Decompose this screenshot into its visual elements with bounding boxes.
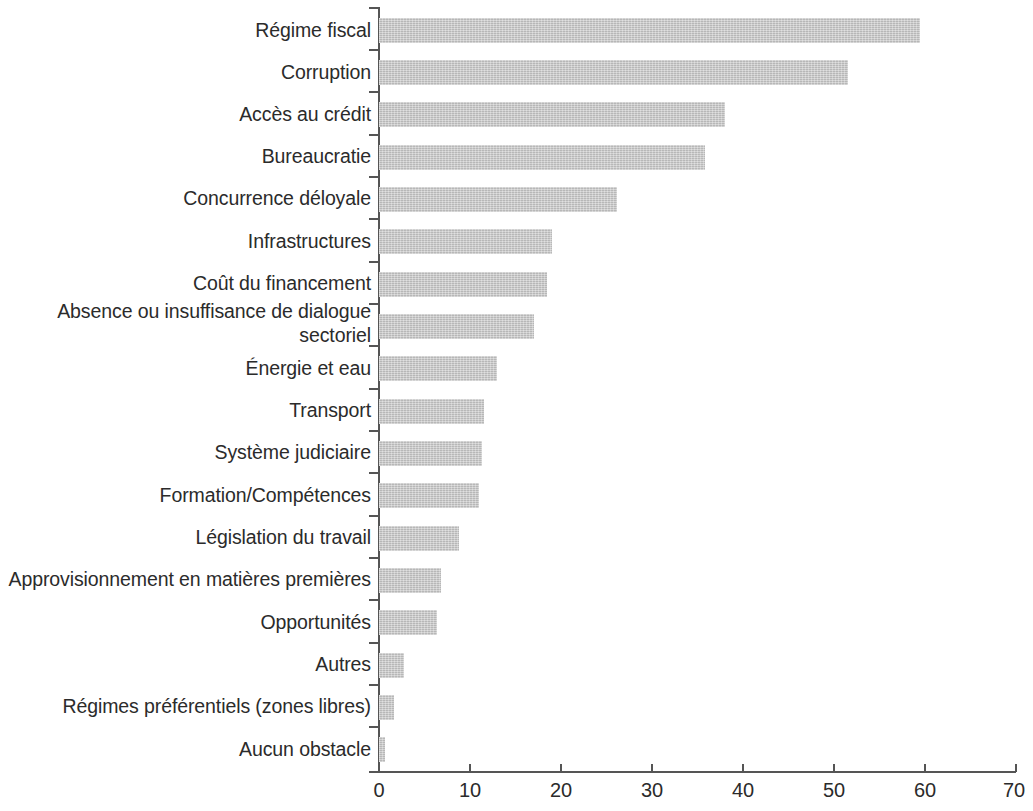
y-axis-label-12: Législation du travail [0,525,371,549]
bar-14 [379,610,437,635]
y-axis-tick [369,557,379,559]
y-axis-tick [369,134,379,136]
y-axis-tick [369,218,379,220]
x-axis-tick [378,764,380,772]
bar-16 [379,695,394,720]
x-axis-tick [1015,764,1017,772]
bar-8 [379,356,497,381]
y-axis-label-0: Régime fiscal [0,18,371,42]
x-axis-tick-label-5: 50 [804,778,864,802]
x-axis-tick-label-2: 20 [531,778,591,802]
x-axis-tick [651,764,653,772]
y-axis-label-13: Approvisionnement en matières premières [0,567,371,591]
bar-5 [379,229,552,254]
y-axis-tick [369,49,379,51]
y-axis-tick [369,472,379,474]
x-axis-tick-label-3: 30 [622,778,682,802]
y-axis-label-3: Bureaucratie [0,144,371,168]
y-axis-tick [369,388,379,390]
bar-12 [379,526,459,551]
y-axis-label-8: Énergie et eau [0,356,371,380]
y-axis-label-1: Corruption [0,60,371,84]
y-axis-tick [369,642,379,644]
bar-6 [379,272,547,297]
x-axis-tick [924,764,926,772]
y-axis-label-2: Accès au crédit [0,102,371,126]
bar-1 [379,60,848,85]
x-axis-tick [833,764,835,772]
x-axis-tick [469,764,471,772]
y-axis-label-5: Infrastructures [0,229,371,253]
bar-9 [379,399,484,424]
bar-17 [379,737,385,762]
bar-10 [379,441,482,466]
y-axis-label-9: Transport [0,398,371,422]
y-axis-tick [369,7,379,9]
bar-13 [379,568,441,593]
bar-4 [379,187,617,212]
x-axis-tick [560,764,562,772]
x-axis-line [378,771,1016,773]
y-axis-tick [369,684,379,686]
y-axis-label-15: Autres [0,652,371,676]
bar-0 [379,18,920,43]
y-axis-tick [369,91,379,93]
y-axis-tick [369,176,379,178]
y-axis-tick [369,261,379,263]
y-axis-tick [369,303,379,305]
y-axis-label-16: Régimes préférentiels (zones libres) [0,694,371,718]
y-axis-tick [369,430,379,432]
y-axis-label-11: Formation/Compétences [0,483,371,507]
y-axis-label-17: Aucun obstacle [0,737,371,761]
x-axis-tick-label-7: 70 [984,778,1033,802]
bar-7 [379,314,534,339]
x-axis-tick-label-4: 40 [713,778,773,802]
y-axis-category-labels: Régime fiscal Corruption Accès au crédit… [0,0,371,772]
y-axis-label-10: Système judiciaire [0,440,371,464]
y-axis-label-7: Absence ou insuffisance de dialogue sect… [0,299,371,347]
y-axis-label-6: Coût du financement [0,271,371,295]
y-axis-tick [369,515,379,517]
horizontal-bar-chart: Régime fiscal Corruption Accès au crédit… [0,0,1033,811]
x-axis-tick-label-1: 10 [440,778,500,802]
y-axis-label-4: Concurrence déloyale [0,186,371,210]
bar-11 [379,483,479,508]
x-axis-tick [742,764,744,772]
bar-2 [379,102,725,127]
y-axis-tick [369,599,379,601]
x-axis-tick-label-0: 0 [349,778,409,802]
y-axis-tick [369,345,379,347]
bar-15 [379,653,404,678]
y-axis-tick [369,726,379,728]
y-axis-label-14: Opportunités [0,610,371,634]
x-axis-tick-label-6: 60 [895,778,955,802]
bar-3 [379,145,705,170]
plot-area [379,0,1033,772]
